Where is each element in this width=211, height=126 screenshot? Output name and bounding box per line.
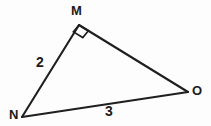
geometry-figure: M N O 2 3 xyxy=(0,0,211,126)
side-length-label-mn: 2 xyxy=(36,55,44,69)
vertex-label-m: M xyxy=(71,4,82,17)
vertex-label-o: O xyxy=(192,84,202,97)
side-length-label-no: 3 xyxy=(105,104,113,118)
side-mn-line xyxy=(22,25,79,117)
vertex-label-n: N xyxy=(9,108,18,121)
side-mo-line xyxy=(79,25,188,92)
